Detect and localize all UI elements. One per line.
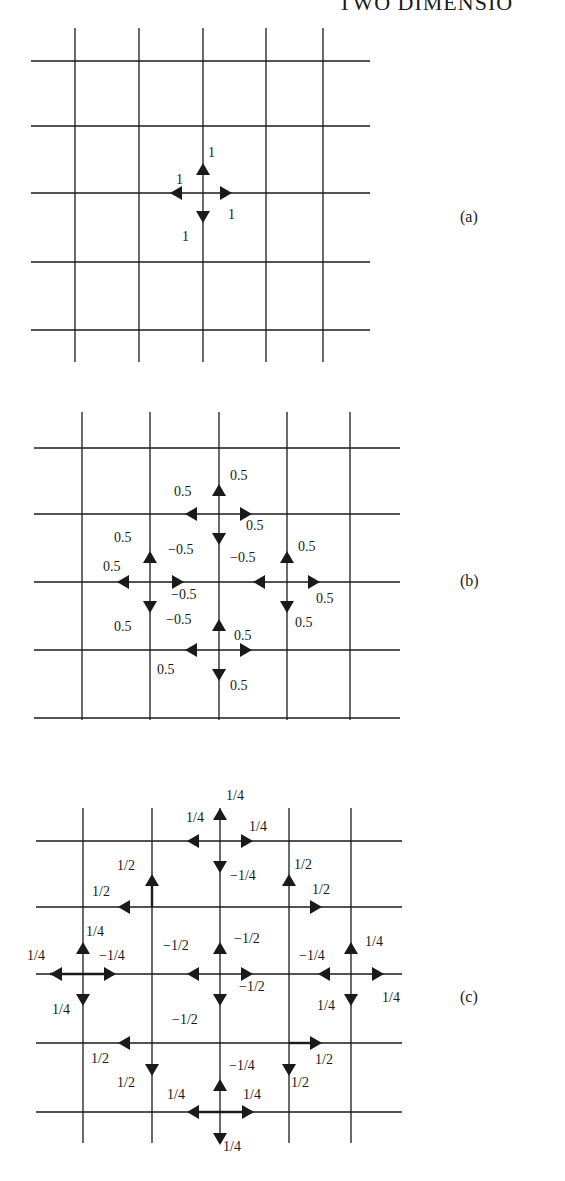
flux-value: 1/2 [91,1051,109,1066]
flux-value: 0.5 [316,591,334,606]
flux-value: 0.5 [157,662,175,677]
arrow-left-icon [117,575,129,589]
flux-value: 1/2 [315,1052,333,1067]
diagram-panel-a: 1 1 1 1 [0,0,565,380]
arrow-right-icon [220,186,232,200]
flux-value: 1/4 [223,1139,241,1154]
arrow-left-icon [187,967,199,981]
arrow-right-icon [308,575,320,589]
arrow-up-icon [145,874,159,886]
flux-value: −1/4 [229,1058,255,1073]
arrow-right-icon [242,1105,254,1119]
flux-value: 0.5 [230,468,248,483]
diagram-panel-c: 1/4 1/4 1/4 1/2 −1/4 1/2 1/2 1/2 1/4 −1/… [0,780,565,1181]
arrow-left-icon [318,967,330,981]
flux-value: 0.5 [114,619,132,634]
arrows-c [50,808,384,1145]
arrow-right-icon [310,900,322,914]
arrow-left-icon [50,967,62,981]
diagram-panel-b: 0.5 0.5 0.5 0.5 −0.5 −0.5 0.5 0.5 −0.5 0… [0,380,565,740]
flux-value: 1/4 [86,924,104,939]
flux-value: 0.5 [114,530,132,545]
flux-value: −1/4 [99,948,125,963]
flux-value: 0.5 [230,678,248,693]
flux-value: 1 [228,207,235,222]
arrow-left-icon [187,834,199,848]
arrow-up-icon [213,808,227,820]
arrow-down-icon [212,533,226,545]
arrow-down-icon [280,601,294,613]
arrow-up-icon [212,619,226,631]
flux-value: 0.5 [298,539,316,554]
arrow-left-icon [118,1036,130,1050]
flux-value: 1/2 [117,858,135,873]
flux-value: 0.5 [103,559,121,574]
flux-value: −1/2 [239,979,265,994]
flux-value: 1/2 [294,857,312,872]
arrow-up-icon [280,551,294,563]
flux-value: 1 [182,229,189,244]
flux-value: 0.5 [295,615,313,630]
arrow-left-icon [185,507,197,521]
flux-value: 1/4 [249,819,267,834]
flux-value: 0.5 [234,628,252,643]
flux-value: 1/4 [167,1087,185,1102]
arrow-down-icon [143,601,157,613]
arrow-left-icon [118,900,130,914]
grid-c [36,808,402,1143]
thick-segments-c [50,880,315,1112]
flux-value: −1/2 [163,938,189,953]
flux-value: −1/2 [172,1012,198,1027]
arrow-up-icon [213,942,227,954]
arrow-up-icon [344,942,358,954]
flux-value: −0.5 [168,542,193,557]
flux-value: 0.5 [246,518,264,533]
arrow-up-icon [213,1079,227,1091]
flux-value: 1/4 [317,998,335,1013]
arrow-down-icon [76,994,90,1006]
arrow-left-icon [253,575,265,589]
arrow-down-icon [212,669,226,681]
flux-value: 1/4 [27,948,45,963]
flux-value: −0.5 [166,612,191,627]
arrow-left-icon [187,1105,199,1119]
flux-value: 1/2 [92,884,110,899]
flux-value: −0.5 [171,587,196,602]
arrow-up-icon [143,551,157,563]
arrow-up-icon [282,874,296,886]
arrow-right-icon [310,1036,322,1050]
arrow-left-icon [185,643,197,657]
arrow-down-icon [145,1064,159,1076]
grid-a [31,28,370,362]
arrow-up-icon [212,484,226,496]
arrow-down-icon [213,994,227,1006]
arrow-down-icon [344,994,358,1006]
arrow-right-icon [372,967,384,981]
panel-label-a: (a) [460,208,478,226]
values-b: 0.5 0.5 0.5 0.5 −0.5 −0.5 0.5 0.5 −0.5 0… [103,468,334,693]
flux-value: 1/4 [382,990,400,1005]
arrow-right-icon [240,643,252,657]
flux-value: 1/2 [291,1075,309,1090]
flux-value: 1/4 [365,934,383,949]
flux-value: 1/4 [243,1087,261,1102]
arrow-right-icon [104,967,116,981]
flux-value: 1/4 [186,810,204,825]
flux-value: 1/2 [312,882,330,897]
panel-label-b: (b) [460,572,479,590]
flux-value: −0.5 [230,550,255,565]
flux-value: −1/4 [230,868,256,883]
flux-value: 0.5 [174,484,192,499]
arrow-right-icon [241,834,253,848]
arrow-up-icon [196,163,210,175]
flux-value: 1/4 [52,1002,70,1017]
flux-value: −1/2 [234,931,260,946]
arrow-up-icon [76,942,90,954]
flux-value: 1 [208,145,215,160]
flux-value: −1/4 [299,948,325,963]
arrow-down-icon [196,211,210,223]
flux-value: 1 [176,172,183,187]
arrow-down-icon [213,861,227,873]
panel-label-c: (c) [460,988,478,1006]
arrow-left-icon [170,186,182,200]
